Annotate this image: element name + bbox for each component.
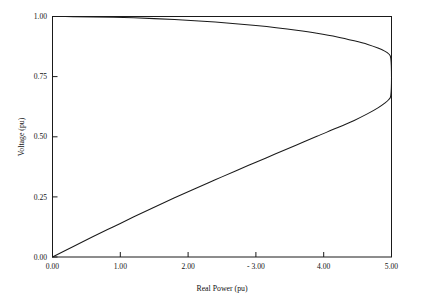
y-tick-label: 0.00	[34, 253, 47, 262]
y-tick-label: 0.25	[34, 193, 47, 202]
plot-frame	[53, 17, 392, 258]
y-tick-label: 0.50	[34, 132, 47, 141]
pv-curve-figure: 0.00 0.25 0.50 0.75 1.00 0.00 1.00 2.00 …	[0, 0, 424, 303]
x-tick-label: 2.00	[181, 262, 194, 271]
pv-nose-curve	[53, 17, 392, 258]
x-tick-label: 4.00	[317, 262, 330, 271]
y-tick-label: 0.75	[34, 72, 47, 81]
x-tick-label: 5.00	[385, 262, 398, 271]
x-axis-title: Real Power (pu)	[196, 284, 248, 293]
x-tick-label: - 3.00	[247, 262, 265, 271]
y-tick-label: 1.00	[34, 12, 47, 21]
y-axis-title: Voltage (pu)	[17, 117, 26, 156]
x-tick-labels: 0.00 1.00 2.00 - 3.00 4.00 5.00	[46, 262, 398, 271]
x-tick-label: 0.00	[46, 262, 59, 271]
y-axis-ticks	[53, 17, 58, 258]
chart-canvas: 0.00 0.25 0.50 0.75 1.00 0.00 1.00 2.00 …	[0, 0, 424, 303]
y-tick-labels: 0.00 0.25 0.50 0.75 1.00	[34, 12, 47, 262]
x-tick-label: 1.00	[114, 262, 127, 271]
x-axis-ticks	[53, 252, 392, 257]
